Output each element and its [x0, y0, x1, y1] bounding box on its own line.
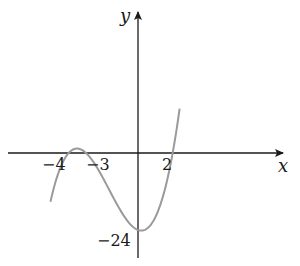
tick-label-neg3: −3 — [86, 155, 110, 174]
x-axis-label: x — [278, 155, 288, 176]
cubic-curve — [50, 109, 179, 231]
tick-label-2: 2 — [162, 155, 172, 174]
tick-label-neg4: −4 — [42, 155, 66, 174]
tick-label-neg24: −24 — [97, 231, 131, 250]
cubic-graph: y x −4 −3 2 −24 — [0, 0, 300, 266]
y-axis-label: y — [119, 5, 131, 26]
